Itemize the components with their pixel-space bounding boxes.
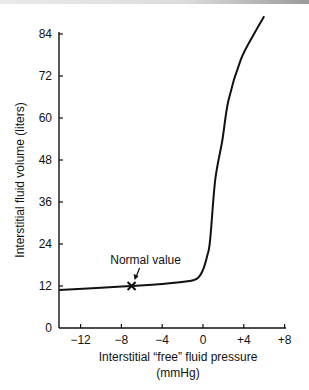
x-tick-label: −12 [70, 333, 91, 347]
chart: 012243648607284 −12−8−40+4+8 Interstitia… [0, 0, 309, 390]
y-tick-label: 12 [39, 279, 53, 293]
y-tick-label: 48 [39, 153, 53, 167]
y-tick-label: 0 [45, 321, 52, 335]
x-axis-title: Interstitial “free” fluid pressure [99, 350, 258, 364]
arrowhead-icon [134, 274, 139, 280]
y-tick-label: 72 [39, 69, 53, 83]
y-tick-label: 24 [39, 237, 53, 251]
normal-value-label: Normal value [110, 253, 181, 267]
x-tick-label: 0 [200, 333, 207, 347]
x-tick-label: −4 [155, 333, 169, 347]
y-tick-label: 60 [39, 111, 53, 125]
y-tick-label: 36 [39, 195, 53, 209]
y-tick-label: 84 [39, 27, 53, 41]
x-tick-label: +4 [237, 333, 251, 347]
y-axis-title: Interstitial fluid volume (liters) [13, 102, 27, 257]
x-tick-label: +8 [278, 333, 292, 347]
x-axis-unit: (mmHg) [156, 366, 199, 380]
volume-pressure-curve [59, 16, 264, 290]
x-tick-label: −8 [115, 333, 129, 347]
